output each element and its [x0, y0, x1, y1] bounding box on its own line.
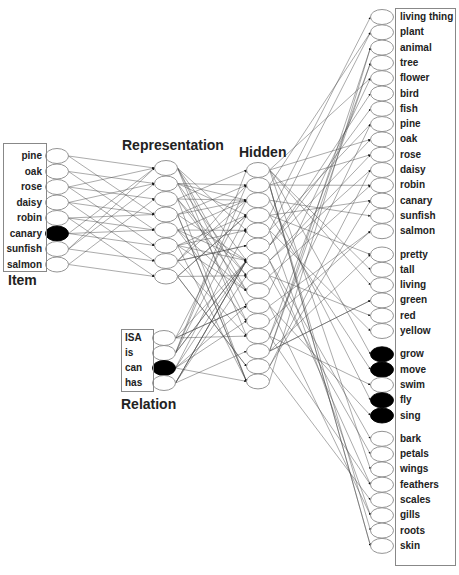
attribute-label-pine: pine	[400, 118, 421, 130]
attribute-unit-bark	[371, 431, 394, 446]
representation-unit	[155, 254, 178, 269]
item-title: Item	[8, 272, 37, 288]
representation-unit	[155, 176, 178, 191]
relation-label-has: has	[125, 377, 142, 389]
attribute-unit-grow	[371, 347, 394, 362]
attribute-unit-living	[371, 278, 394, 293]
relation-label-is: is	[125, 347, 133, 359]
attribute-unit-bird	[371, 86, 394, 101]
item-unit-salmon	[46, 257, 69, 272]
attribute-label-green: green	[400, 294, 427, 306]
attribute-unit-pretty	[371, 247, 394, 262]
units	[46, 10, 394, 554]
attribute-unit-canary	[371, 193, 394, 208]
item-unit-robin	[46, 211, 69, 226]
attribute-unit-plant	[371, 25, 394, 40]
hidden-unit	[247, 193, 270, 208]
attribute-unit-sunfish	[371, 208, 394, 223]
hidden-unit	[247, 298, 270, 313]
attribute-unit-petals	[371, 447, 394, 462]
attribute-label-daisy: daisy	[400, 164, 426, 176]
attribute-label-wings: wings	[400, 463, 428, 475]
attribute-label-plant: plant	[400, 26, 424, 38]
attribute-label-salmon: salmon	[400, 225, 435, 237]
attribute-unit-wings	[371, 462, 394, 477]
attribute-unit-gills	[371, 508, 394, 523]
hidden-unit	[247, 314, 270, 329]
attribute-unit-daisy	[371, 163, 394, 178]
item-unit-canary	[46, 226, 69, 241]
attribute-label-bird: bird	[400, 88, 419, 100]
relation-unit-ISA	[153, 331, 176, 346]
item-unit-rose	[46, 180, 69, 195]
attribute-label-flower: flower	[400, 72, 429, 84]
hidden-unit	[247, 208, 270, 223]
representation-unit	[155, 207, 178, 222]
hidden-unit	[247, 178, 270, 193]
hidden-unit	[247, 253, 270, 268]
attribute-unit-rose	[371, 147, 394, 162]
attribute-unit-skin	[371, 538, 394, 553]
attribute-unit-swim	[371, 377, 394, 392]
item-unit-pine	[46, 149, 69, 164]
attribute-label-roots: roots	[400, 525, 425, 537]
relation-label-can: can	[125, 362, 142, 374]
attribute-unit-salmon	[371, 224, 394, 239]
attribute-label-grow: grow	[400, 348, 424, 360]
attribute-label-rose: rose	[400, 149, 421, 161]
item-unit-daisy	[46, 195, 69, 210]
item-label-pine: pine	[21, 150, 42, 162]
attribute-label-pretty: pretty	[400, 249, 428, 261]
attribute-label-tall: tall	[400, 264, 414, 276]
hidden-unit	[247, 268, 270, 283]
attribute-label-tree: tree	[400, 57, 418, 69]
attribute-label-skin: skin	[400, 540, 420, 552]
attribute-unit-pine	[371, 117, 394, 132]
attribute-unit-red	[371, 308, 394, 323]
attribute-unit-yellow	[371, 324, 394, 339]
attribute-label-yellow: yellow	[400, 325, 431, 337]
attribute-label-move: move	[400, 364, 426, 376]
attribute-unit-oak	[371, 132, 394, 147]
attribute-unit-tree	[371, 55, 394, 70]
item-label-daisy: daisy	[16, 197, 42, 209]
attribute-unit-scales	[371, 493, 394, 508]
hidden-unit	[247, 374, 270, 389]
hidden-unit	[247, 223, 270, 238]
attribute-unit-tall	[371, 262, 394, 277]
attribute-label-gills: gills	[400, 509, 420, 521]
attribute-label-living: living	[400, 279, 426, 291]
attribute-unit-flower	[371, 71, 394, 86]
item-label-salmon: salmon	[7, 259, 42, 271]
relation-unit-has	[153, 376, 176, 391]
item-unit-oak	[46, 164, 69, 179]
representation-unit	[155, 161, 178, 176]
hidden-unit	[247, 359, 270, 374]
item-label-rose: rose	[21, 181, 42, 193]
attribute-label-oak: oak	[400, 133, 417, 145]
attribute-unit-green	[371, 293, 394, 308]
attribute-unit-feathers	[371, 477, 394, 492]
hidden-unit	[247, 329, 270, 344]
attribute-unit-robin	[371, 178, 394, 193]
attribute-label-bark: bark	[400, 433, 421, 445]
attribute-unit-sing	[371, 408, 394, 423]
representation-unit	[155, 192, 178, 207]
item-label-oak: oak	[25, 166, 42, 178]
attribute-label-sing: sing	[400, 410, 421, 422]
attribute-label-living-thing: living thing	[400, 11, 453, 23]
attribute-label-red: red	[400, 310, 416, 322]
relation-unit-can	[153, 361, 176, 376]
attribute-label-robin: robin	[400, 179, 425, 191]
item-label-robin: robin	[17, 212, 42, 224]
attribute-label-scales: scales	[400, 494, 431, 506]
attribute-label-feathers: feathers	[400, 479, 439, 491]
attribute-unit-living-thing	[371, 10, 394, 25]
attribute-label-animal: animal	[400, 42, 432, 54]
attribute-unit-roots	[371, 523, 394, 538]
attribute-label-fly: fly	[400, 394, 412, 406]
item-label-canary: canary	[10, 228, 42, 240]
item-label-sunfish: sunfish	[6, 243, 42, 255]
hidden-unit	[247, 163, 270, 178]
representation-unit	[155, 238, 178, 253]
